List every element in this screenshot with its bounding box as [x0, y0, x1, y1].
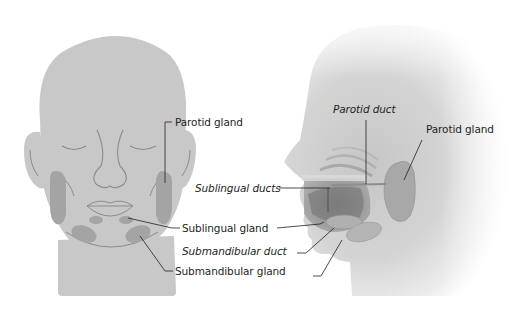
front-head	[39, 36, 186, 262]
label-side-parotid-gland: Parotid gland	[426, 124, 494, 135]
label-side-parotid-duct: Parotid duct	[333, 104, 396, 115]
front-left-parotid-gland	[50, 171, 66, 224]
front-right-sublingual-gland	[119, 216, 133, 224]
front-view	[24, 36, 196, 296]
front-right-parotid-gland	[156, 171, 172, 224]
front-left-sublingual-gland	[89, 216, 103, 224]
label-front-parotid-gland: Parotid gland	[175, 117, 243, 128]
label-front-submandibular-gland: Submandibular gland	[175, 266, 286, 277]
side-view	[260, 0, 517, 313]
label-side-submandibular-duct: Submandibular duct	[182, 246, 287, 257]
label-front-sublingual-gland: Sublingual gland	[182, 223, 268, 234]
salivary-glands-diagram: Parotid gland Sublingual gland Submandib…	[0, 0, 517, 313]
side-parotid-gland	[384, 161, 415, 221]
label-side-sublingual-ducts: Sublingual ducts	[195, 183, 281, 194]
side-parotid-duct	[332, 184, 386, 185]
